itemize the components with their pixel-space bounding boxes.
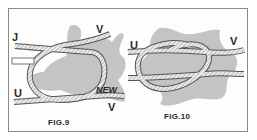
fig9-label-v-bottom: V — [108, 102, 115, 113]
fig9-label-j: J — [12, 32, 18, 43]
fig10-label-v: V — [230, 36, 237, 47]
fig10-hide-shape — [137, 28, 237, 106]
fig9-label-new: NEW — [96, 86, 117, 95]
knot-illustration — [0, 0, 257, 140]
fig10-label-u: U — [130, 40, 138, 51]
fig10-caption: FIG.10 — [164, 112, 190, 121]
fig9-label-u: U — [14, 88, 22, 99]
fig9-rope-stub — [12, 58, 34, 64]
fig9-caption: FIG.9 — [48, 118, 70, 127]
fig9-label-v-top: V — [96, 24, 103, 35]
